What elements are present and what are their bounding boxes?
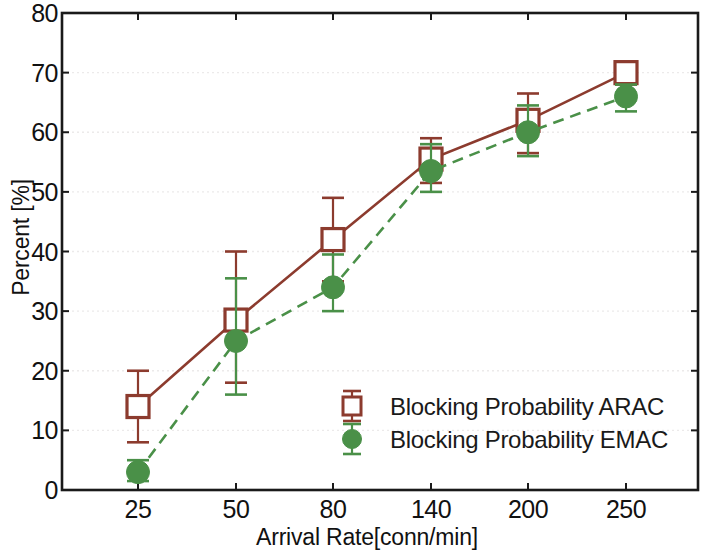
plot-canvas [0,0,710,559]
data-point-marker [420,160,443,183]
data-point-marker [225,329,248,352]
gridlines [62,73,698,431]
legend-markers [343,391,362,454]
data-point-marker [517,121,540,144]
legend-marker-emac [343,430,362,449]
series-emac [127,85,638,484]
data-point-marker [615,62,637,84]
data-point-marker [322,229,344,251]
chart-figure: Percent [%] Arrival Rate[conn/min] 01020… [0,0,710,559]
data-point-marker [127,396,149,418]
data-point-marker [322,276,345,299]
legend-label-arac: Blocking Probability ARAC [390,393,664,421]
data-point-marker [615,85,638,108]
series-line [138,73,626,407]
legend-label-emac: Blocking Probability EMAC [390,426,668,454]
legend-marker-arac [343,397,361,415]
data-point-marker [127,461,150,484]
